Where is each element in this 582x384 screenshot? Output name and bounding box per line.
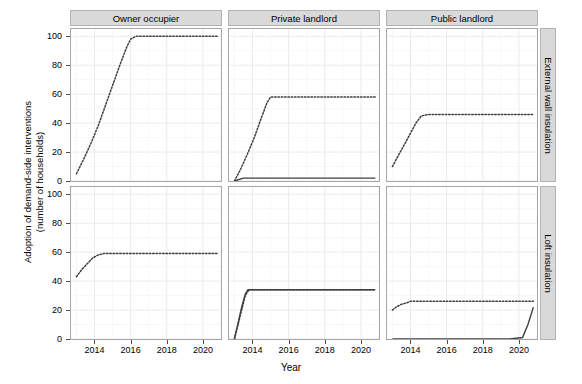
series-observed (234, 290, 375, 339)
y-tick-mark (66, 36, 70, 37)
y-tick-mark (66, 65, 70, 66)
strip-right-label-1: Loft insulation (543, 234, 554, 293)
panel-owner-occupier-external-wall (70, 28, 222, 182)
strip-right-external-wall-insulation: External wall insulation (540, 28, 556, 182)
x-tick-mark (519, 340, 520, 344)
series-modelled (392, 114, 533, 166)
y-tick-mark (66, 223, 70, 224)
panel-public-landlord-external-wall (386, 28, 538, 182)
y-tick-mark (66, 281, 70, 282)
y-tick-label: 40 (36, 119, 62, 128)
x-tick-mark (131, 340, 132, 344)
y-tick-mark (66, 152, 70, 153)
x-axis-title: Year (0, 362, 582, 373)
strip-top-owner-occupier: Owner occupier (70, 10, 222, 26)
series-observed (392, 307, 533, 339)
x-tick-label: 2018 (150, 346, 184, 355)
x-tick-label: 2014 (77, 346, 111, 355)
y-tick-label: 60 (36, 248, 62, 257)
x-tick-mark (252, 340, 253, 344)
x-tick-label: 2014 (393, 346, 427, 355)
series-modelled (234, 97, 375, 181)
x-tick-label: 2018 (308, 346, 342, 355)
x-tick-mark (325, 340, 326, 344)
x-tick-label: 2020 (502, 346, 536, 355)
x-tick-label: 2020 (344, 346, 378, 355)
x-tick-mark (483, 340, 484, 344)
panel-private-landlord-loft (228, 186, 380, 340)
x-tick-label: 2016 (114, 346, 148, 355)
panel-private-landlord-external-wall (228, 28, 380, 182)
y-tick-label: 20 (36, 148, 62, 157)
x-tick-label: 2016 (272, 346, 306, 355)
x-tick-mark (447, 340, 448, 344)
y-tick-mark (66, 310, 70, 311)
strip-top-private-landlord: Private landlord (228, 10, 380, 26)
x-tick-mark (361, 340, 362, 344)
x-tick-mark (94, 340, 95, 344)
y-tick-mark (66, 181, 70, 182)
series-modelled (234, 290, 375, 339)
series-modelled (392, 301, 533, 310)
y-tick-label: 100 (36, 32, 62, 41)
x-tick-mark (410, 340, 411, 344)
panel-public-landlord-loft (386, 186, 538, 340)
strip-top-label-1: Private landlord (271, 13, 337, 24)
strip-top-label-2: Public landlord (431, 13, 493, 24)
y-tick-label: 0 (36, 177, 62, 186)
strip-right-label-0: External wall insulation (543, 57, 554, 154)
x-tick-mark (289, 340, 290, 344)
y-tick-label: 40 (36, 277, 62, 286)
x-tick-label: 2016 (430, 346, 464, 355)
y-tick-mark (66, 252, 70, 253)
y-tick-mark (66, 194, 70, 195)
x-tick-label: 2014 (235, 346, 269, 355)
x-tick-mark (203, 340, 204, 344)
series-modelled (76, 36, 217, 174)
x-tick-mark (167, 340, 168, 344)
series-modelled (76, 254, 217, 277)
y-tick-mark (66, 94, 70, 95)
y-tick-label: 60 (36, 90, 62, 99)
y-tick-label: 80 (36, 61, 62, 70)
y-tick-label: 100 (36, 190, 62, 199)
y-tick-mark (66, 339, 70, 340)
x-tick-label: 2020 (186, 346, 220, 355)
strip-right-loft-insulation: Loft insulation (540, 186, 556, 340)
panel-owner-occupier-loft (70, 186, 222, 340)
y-tick-label: 0 (36, 335, 62, 344)
strip-top-public-landlord: Public landlord (386, 10, 538, 26)
strip-top-label-0: Owner occupier (113, 13, 180, 24)
y-tick-label: 80 (36, 219, 62, 228)
x-tick-label: 2018 (466, 346, 500, 355)
y-tick-mark (66, 123, 70, 124)
y-tick-label: 20 (36, 306, 62, 315)
